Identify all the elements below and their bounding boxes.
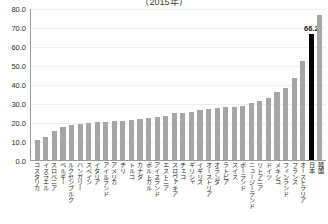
bar-slot bbox=[50, 9, 59, 160]
bar-slot bbox=[110, 9, 119, 160]
bar-slot bbox=[230, 9, 239, 160]
x-axis-label-slot: オーストリア bbox=[204, 162, 213, 224]
x-axis-label-slot: オランダ bbox=[212, 162, 221, 224]
bar-slot bbox=[221, 9, 230, 160]
bar bbox=[283, 88, 288, 160]
bar bbox=[274, 92, 279, 160]
x-axis-label: 日本 bbox=[308, 162, 314, 224]
bar-slot bbox=[196, 9, 205, 160]
x-axis-label: オーストリア bbox=[205, 162, 211, 224]
x-axis-label-slot: スロベニア bbox=[49, 162, 58, 224]
x-axis-label-slot: チェコ bbox=[178, 162, 187, 224]
x-axis-label: スイス bbox=[231, 162, 237, 224]
bar bbox=[257, 101, 262, 160]
x-axis-label: アメリカ bbox=[110, 162, 116, 224]
x-axis-label: フランス bbox=[291, 162, 297, 224]
bar-slot bbox=[290, 9, 299, 160]
x-axis-label-slot: ラトビア bbox=[221, 162, 230, 224]
bar-slot bbox=[102, 9, 111, 160]
x-axis-label: ラトビア bbox=[222, 162, 228, 224]
bar bbox=[60, 127, 65, 160]
bar-slot bbox=[273, 9, 282, 160]
x-axis-label-slot: オーストラリア bbox=[298, 162, 307, 224]
x-axis-label: 韓国 bbox=[317, 162, 323, 224]
bar-slot bbox=[264, 9, 273, 160]
x-axis-label-slot: アイスランド bbox=[152, 162, 161, 224]
bar bbox=[317, 15, 322, 160]
x-axis-label-slot: ギリシャ bbox=[187, 162, 196, 224]
bar-slot bbox=[239, 9, 248, 160]
bar-series: 66.2 bbox=[31, 9, 326, 160]
x-axis-label-slot: ベルギー bbox=[58, 162, 67, 224]
bar bbox=[266, 98, 271, 160]
bar bbox=[215, 108, 220, 160]
chart-title: （2015年） bbox=[0, 0, 328, 8]
bar-slot bbox=[170, 9, 179, 160]
x-axis-label-slot: ルクセンブルク bbox=[66, 162, 75, 224]
bar-slot bbox=[144, 9, 153, 160]
bar-slot bbox=[76, 9, 85, 160]
bar-slot bbox=[213, 9, 222, 160]
x-axis-label: アイスランド bbox=[153, 162, 159, 224]
y-axis-tick: 30.0 bbox=[11, 100, 26, 109]
x-axis-label-slot: エストニア bbox=[161, 162, 170, 224]
bar-slot bbox=[119, 9, 128, 160]
bar bbox=[292, 78, 297, 160]
bar bbox=[43, 137, 48, 160]
plot-area: 66.2 bbox=[30, 9, 326, 161]
bar-slot bbox=[204, 9, 213, 160]
bar-slot bbox=[59, 9, 68, 160]
x-axis-label: ポーランド bbox=[239, 162, 245, 224]
x-axis-label: ハンガリー bbox=[76, 162, 82, 224]
bar-slot bbox=[127, 9, 136, 160]
bar bbox=[52, 131, 57, 160]
x-axis-label: オランダ bbox=[214, 162, 220, 224]
x-axis-label-slot: カナダ bbox=[135, 162, 144, 224]
x-axis-label: チリ bbox=[119, 162, 125, 224]
y-axis: 80.070.060.050.040.030.020.010.00.0 bbox=[0, 9, 28, 161]
x-axis-label: ニュージーランド bbox=[248, 162, 254, 224]
bar-slot bbox=[42, 9, 51, 160]
x-axis-label: トルコ bbox=[128, 162, 134, 224]
bar-slot bbox=[281, 9, 290, 160]
bar-slot bbox=[67, 9, 76, 160]
x-axis-label: ポルトガル bbox=[145, 162, 151, 224]
bar-slot bbox=[136, 9, 145, 160]
x-axis-label-slot: フィンランド bbox=[281, 162, 290, 224]
x-axis-label-slot: アメリカ bbox=[109, 162, 118, 224]
bar bbox=[206, 109, 211, 160]
bar-slot bbox=[187, 9, 196, 160]
x-axis-label-slot: ポーランド bbox=[238, 162, 247, 224]
bar bbox=[180, 113, 185, 161]
x-axis-label: コスタリカ bbox=[33, 162, 39, 224]
bar bbox=[120, 121, 125, 160]
x-axis-label: ルクセンブルク bbox=[67, 162, 73, 224]
bar bbox=[197, 110, 202, 160]
x-axis-label-slot: スロヴァキア bbox=[170, 162, 179, 224]
x-axis-label: ベルギー bbox=[59, 162, 65, 224]
x-axis-label: エストニア bbox=[162, 162, 168, 224]
bar-slot: 66.2 bbox=[307, 9, 316, 160]
y-axis-tick: 60.0 bbox=[11, 43, 26, 52]
x-axis-label-slot: ハンガリー bbox=[75, 162, 84, 224]
x-axis-label: イギリス bbox=[196, 162, 202, 224]
bar bbox=[155, 117, 160, 160]
x-axis-label-slot: スペイン bbox=[84, 162, 93, 224]
x-axis-label-slot: チリ bbox=[118, 162, 127, 224]
bar bbox=[232, 107, 237, 160]
bar bbox=[95, 122, 100, 160]
x-axis-label-slot: ドイツ bbox=[264, 162, 273, 224]
bar bbox=[146, 118, 151, 160]
x-axis-label-slot: イスラエル bbox=[41, 162, 50, 224]
x-axis-label-slot: リトアニア bbox=[255, 162, 264, 224]
x-axis-label-slot: トルコ bbox=[127, 162, 136, 224]
x-axis-label: フィンランド bbox=[282, 162, 288, 224]
x-axis-label-slot: ニュージーランド bbox=[247, 162, 256, 224]
bar bbox=[223, 107, 228, 160]
x-axis-label: カナダ bbox=[136, 162, 142, 224]
x-axis-label-slot: コスタリカ bbox=[32, 162, 41, 224]
bar bbox=[249, 103, 254, 160]
x-axis-label-slot: ポルトガル bbox=[144, 162, 153, 224]
bar-slot bbox=[316, 9, 325, 160]
y-axis-tick: 40.0 bbox=[11, 81, 26, 90]
